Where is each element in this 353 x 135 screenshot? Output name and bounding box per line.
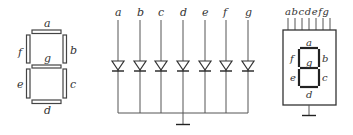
pkg-label-e: e	[290, 72, 296, 83]
pkg-label-b: b	[322, 53, 328, 64]
diode-a: a	[112, 6, 124, 113]
diode-array: a b c d e	[112, 6, 254, 125]
label-g: g	[44, 52, 51, 65]
diode-icon	[155, 61, 167, 70]
diode-c: c	[155, 6, 167, 113]
input-label-c: c	[158, 6, 164, 19]
label-d: d	[44, 104, 51, 117]
input-label-f: f	[222, 6, 229, 19]
diode-icon	[242, 61, 254, 70]
diode-e: e	[199, 6, 211, 113]
segment-d	[32, 100, 61, 104]
display-package: abcdefg a b c d e f g	[283, 6, 336, 116]
input-label-b: b	[137, 6, 144, 19]
label-c: c	[70, 78, 76, 91]
label-b: b	[70, 44, 77, 57]
diode-icon	[112, 61, 124, 70]
pkg-label-g: g	[306, 57, 312, 68]
input-label-d: d	[180, 6, 187, 19]
diode-icon	[199, 61, 211, 70]
pkg-label-d: d	[306, 89, 312, 100]
segment-c	[63, 69, 67, 98]
diode-icon	[134, 61, 146, 70]
diode-f: f	[220, 6, 232, 113]
diode-g: g	[242, 6, 254, 113]
label-a: a	[44, 17, 51, 30]
diode-b: b	[134, 6, 146, 113]
label-f: f	[17, 46, 24, 59]
segment-e	[27, 69, 31, 98]
diode-d: d	[177, 6, 189, 113]
seven-segment-diagram: a b c d e f g a b c	[0, 0, 353, 135]
diode-icon	[220, 61, 232, 70]
pkg-label-c: c	[322, 72, 328, 83]
input-label-a: a	[115, 6, 122, 19]
pin-leads	[288, 18, 330, 30]
segment-layout: a b c d e f g	[17, 17, 77, 117]
input-label-g: g	[245, 6, 252, 19]
segment-f	[27, 35, 31, 63]
label-e: e	[17, 78, 24, 91]
segment-g	[32, 65, 61, 68]
segment-b	[63, 35, 67, 63]
pkg-label-a: a	[306, 37, 312, 48]
segment-a	[32, 30, 61, 34]
pin-labels: abcdefg	[285, 6, 330, 17]
input-label-e: e	[202, 6, 209, 19]
diode-icon	[177, 61, 189, 70]
